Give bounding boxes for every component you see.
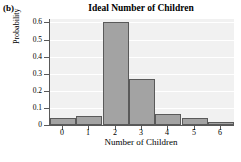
gridline <box>50 40 234 41</box>
y-tick-mark <box>44 74 49 75</box>
x-tick-label: 3 <box>131 129 151 137</box>
y-tick-label-text: 0.6 <box>18 18 42 26</box>
y-tick-label: 0.6 <box>18 18 42 26</box>
chart-title: Ideal Number of Children <box>49 3 233 13</box>
y-tick-label: 0 <box>18 121 42 129</box>
x-tick-label: 1 <box>78 129 98 137</box>
y-tick-mark <box>44 22 49 23</box>
bar <box>182 118 208 125</box>
y-tick-label-text: 0.1 <box>18 104 42 112</box>
y-tick-mark <box>44 57 49 58</box>
bar <box>129 79 155 125</box>
y-tick-label-text: 0.2 <box>18 87 42 95</box>
y-tick-label: 0.2 <box>18 87 42 95</box>
x-tick-label: 6 <box>210 129 230 137</box>
x-tick-label: 0 <box>52 129 72 137</box>
y-tick-mark <box>44 91 49 92</box>
x-tick-label: 4 <box>157 129 177 137</box>
gridline <box>50 57 234 58</box>
bar <box>50 118 76 125</box>
bar <box>103 22 129 125</box>
figure-panel: (b) Ideal Number of Children Probability… <box>0 0 241 162</box>
y-tick-label-text: 0.4 <box>18 53 42 61</box>
y-tick-label-text: 0.3 <box>18 70 42 78</box>
x-tick-label: 5 <box>184 129 204 137</box>
y-tick-label-text: 0.5 <box>18 36 42 44</box>
bar <box>155 114 181 125</box>
plot-area <box>49 19 234 125</box>
y-tick-label: 0.5 <box>18 36 42 44</box>
y-tick-mark <box>44 40 49 41</box>
y-tick-label: 0.1 <box>18 104 42 112</box>
bar <box>76 116 102 125</box>
y-tick-label-text: 0 <box>18 121 42 129</box>
y-tick-label: 0.4 <box>18 53 42 61</box>
y-tick-label: 0.3 <box>18 70 42 78</box>
y-tick-mark <box>44 108 49 109</box>
gridline <box>50 74 234 75</box>
x-axis-label: Number of Children <box>49 138 233 147</box>
gridline <box>50 22 234 23</box>
y-tick-mark <box>44 125 49 126</box>
x-tick-label: 2 <box>105 129 125 137</box>
